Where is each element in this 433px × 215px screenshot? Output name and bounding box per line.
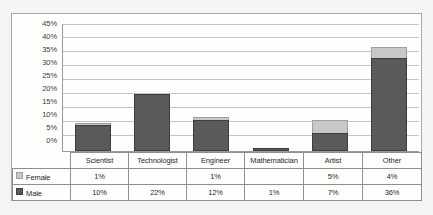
bar-slot-engineer [182, 24, 241, 151]
plot-region: 45% 40% 35% 30% 25% 20% 15% 10% 5% 0% [12, 14, 421, 152]
bar-segment-male-technologist [134, 94, 170, 151]
legend-item-female: Female [13, 169, 71, 185]
bar-segment-male-artist [312, 133, 348, 151]
bar-artist [312, 120, 348, 151]
column-header-artist: Artist [304, 153, 363, 169]
y-axis-tick-10: 10% [13, 111, 57, 119]
cell-male-engineer: 12% [187, 185, 245, 201]
column-header-other: Other [363, 153, 422, 169]
column-header-technologist: Technologist [129, 153, 187, 169]
y-axis: 45% 40% 35% 30% 25% 20% 15% 10% 5% 0% [12, 14, 61, 152]
cell-male-artist: 7% [304, 185, 363, 201]
bar-segment-male-other [371, 58, 407, 151]
bar-segment-male-scientist [75, 125, 111, 151]
cell-male-other: 36% [363, 185, 422, 201]
bar-slot-technologist [122, 24, 181, 151]
cell-male-technologist: 22% [129, 185, 187, 201]
y-axis-tick-20: 20% [13, 85, 57, 93]
bar-technologist [134, 94, 170, 151]
y-axis-tick-45: 45% [13, 20, 57, 28]
column-header-mathematician: Mathematician [245, 153, 304, 169]
column-header-scientist: Scientist [71, 153, 129, 169]
table-row-headers: Scientist Technologist Engineer Mathemat… [13, 153, 422, 169]
plot-area [62, 24, 419, 152]
legend-item-male: Male [13, 185, 71, 201]
bar-slot-artist [300, 24, 359, 151]
y-axis-tick-40: 40% [13, 33, 57, 41]
column-header-engineer: Engineer [187, 153, 245, 169]
table-row: Female 1% 1% 5% 4% [13, 169, 422, 185]
y-axis-tick-30: 30% [13, 59, 57, 67]
cell-male-scientist: 10% [71, 185, 129, 201]
cell-female-scientist: 1% [71, 169, 129, 185]
bar-slot-other [360, 24, 419, 151]
data-table: Scientist Technologist Engineer Mathemat… [12, 152, 422, 201]
table-row: Male 10% 22% 12% 1% 7% 36% [13, 185, 422, 201]
cell-female-artist: 5% [304, 169, 363, 185]
bar-segment-female-other [371, 47, 407, 57]
cell-female-engineer: 1% [187, 169, 245, 185]
legend-label-female: Female [26, 172, 50, 181]
y-axis-tick-5: 5% [13, 124, 57, 132]
legend-label-male: Male [26, 188, 42, 197]
legend-swatch-male-icon [16, 188, 23, 195]
bar-segment-male-engineer [193, 120, 229, 151]
bar-engineer [193, 117, 229, 151]
y-axis-tick-25: 25% [13, 72, 57, 80]
cell-female-other: 4% [363, 169, 422, 185]
bar-other [371, 47, 407, 151]
bars-layer [63, 24, 419, 151]
bar-segment-male-mathematician [253, 148, 289, 151]
bar-slot-scientist [63, 24, 122, 151]
bar-slot-mathematician [241, 24, 300, 151]
bar-scientist [75, 123, 111, 151]
bar-segment-female-artist [312, 120, 348, 133]
bar-mathematician [253, 148, 289, 151]
cell-male-mathematician: 1% [245, 185, 304, 201]
chart-figure: 45% 40% 35% 30% 25% 20% 15% 10% 5% 0% [11, 13, 422, 201]
cell-female-technologist [129, 169, 187, 185]
legend-swatch-female-icon [16, 172, 23, 179]
y-axis-tick-0: 0% [13, 137, 57, 145]
y-axis-tick-35: 35% [13, 46, 57, 54]
table-corner-cell [13, 153, 71, 169]
cell-female-mathematician [245, 169, 304, 185]
y-axis-tick-15: 15% [13, 98, 57, 106]
